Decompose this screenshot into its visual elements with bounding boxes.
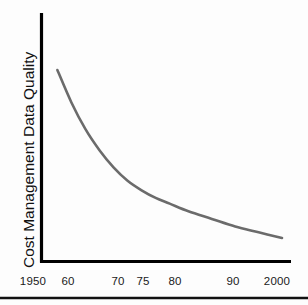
x-tick-label-90: 90 (226, 275, 239, 287)
x-tick-label-80: 80 (168, 275, 181, 287)
x-tick-label-70: 70 (111, 275, 124, 287)
chart-plot-area (0, 0, 308, 305)
x-tick-label-75: 75 (136, 275, 149, 287)
chart-figure: Cost Management Data Quality 1950 60 70 … (0, 0, 308, 305)
data-series-line (57, 70, 282, 238)
y-axis-title: Cost Management Data Quality (16, 18, 42, 268)
x-tick-label-1950: 1950 (20, 275, 46, 287)
x-tick-label-2000: 2000 (264, 275, 290, 287)
x-tick-label-60: 60 (61, 275, 74, 287)
